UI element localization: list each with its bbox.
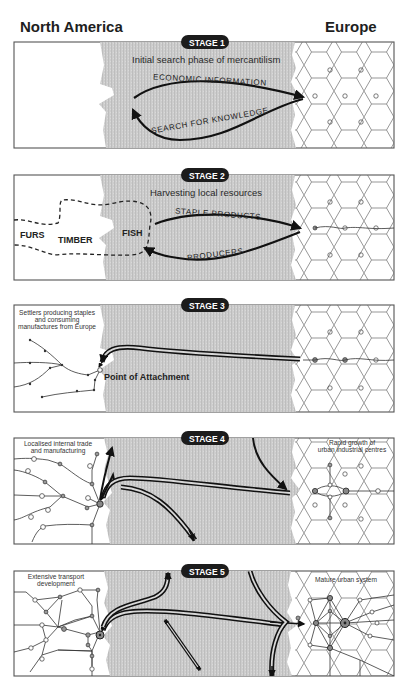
- point-of-attachment-node: [98, 368, 103, 373]
- stage-2-subtitle: Harvesting local resources: [150, 187, 262, 198]
- rapid-growth-note-line-2: urban industrial centres: [318, 446, 387, 453]
- stage-1-badge-text: STAGE 1: [189, 38, 225, 48]
- stage-1-panel: ECONOMIC INFORMATION SEARCH FOR KNOWLEDG…: [14, 35, 394, 148]
- stage-1-subtitle: Initial search phase of mercantilism: [132, 54, 280, 65]
- europe-hex-grid: [295, 42, 394, 148]
- stage-3-panel: Settlers producing staples and consuming…: [14, 298, 394, 412]
- stage-5-panel: Extensive transport development Mature u…: [14, 564, 394, 676]
- stage-2-panel: FURS TIMBER FISH STAPLE PRODUCTS PRODUCE…: [14, 168, 394, 280]
- mercantile-model-diagram: ECONOMIC INFORMATION SEARCH FOR KNOWLEDG…: [0, 0, 412, 688]
- mature-urban-note: Mature urban system: [315, 576, 377, 584]
- stage-2-badge-text: STAGE 2: [189, 171, 225, 181]
- stage-3-badge-text: STAGE 3: [189, 301, 225, 311]
- point-of-attachment-label: Point of Attachment: [104, 372, 189, 382]
- fish-label: FISH: [122, 228, 143, 238]
- localised-trade-note-line-1: Localised internal trade: [24, 440, 93, 447]
- timber-label: TIMBER: [58, 235, 93, 245]
- settlers-note-line-3: manufactures from Europe: [18, 323, 96, 331]
- localised-trade-note-line-2: and manufacturing: [31, 447, 86, 455]
- furs-label: FURS: [20, 230, 45, 240]
- transport-note-line-2: development: [37, 580, 75, 588]
- stage-4-badge-text: STAGE 4: [189, 434, 225, 444]
- stage-5-badge-text: STAGE 5: [189, 567, 225, 577]
- stage-4-panel: Localised internal trade and manufacturi…: [14, 431, 394, 544]
